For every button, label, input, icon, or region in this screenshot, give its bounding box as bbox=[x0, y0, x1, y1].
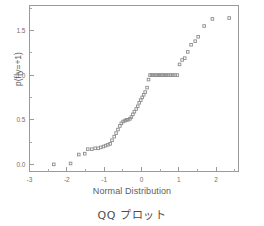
data-point bbox=[94, 147, 97, 150]
data-point bbox=[138, 101, 141, 104]
data-series bbox=[52, 17, 230, 166]
data-point bbox=[178, 63, 181, 66]
data-point bbox=[190, 43, 193, 46]
data-point bbox=[130, 116, 133, 119]
data-point bbox=[111, 139, 114, 142]
data-point bbox=[146, 86, 149, 89]
data-point bbox=[133, 110, 136, 113]
x-tick-label: -3 bbox=[27, 176, 33, 183]
data-point bbox=[176, 74, 179, 77]
data-point bbox=[194, 40, 197, 43]
data-point bbox=[141, 96, 144, 99]
data-point bbox=[115, 132, 118, 135]
data-point bbox=[113, 135, 116, 138]
y-axis-label-container: p(f|y=+1) bbox=[7, 9, 25, 129]
data-point bbox=[144, 91, 147, 94]
data-point bbox=[186, 51, 189, 54]
data-point bbox=[136, 105, 139, 108]
data-point bbox=[147, 78, 150, 81]
data-point bbox=[203, 25, 206, 28]
data-point bbox=[77, 153, 80, 156]
data-point bbox=[91, 148, 94, 151]
data-point bbox=[69, 162, 72, 165]
data-point bbox=[228, 17, 231, 20]
plot-area: -3-2-10120.00.51.01.5 p(f|y=+1) Normal D… bbox=[0, 0, 264, 200]
y-axis-label: p(f|y=+1) bbox=[13, 52, 23, 86]
data-point bbox=[86, 148, 89, 151]
data-point bbox=[139, 99, 142, 102]
data-point bbox=[132, 113, 135, 116]
data-point bbox=[211, 18, 214, 21]
x-axis-label: Normal Distribution bbox=[0, 186, 264, 196]
plot-canvas: -3-2-10120.00.51.01.5 bbox=[0, 0, 264, 200]
data-point bbox=[119, 125, 122, 128]
data-point bbox=[142, 93, 145, 96]
data-point bbox=[197, 35, 200, 38]
data-point bbox=[52, 163, 55, 166]
data-point bbox=[117, 128, 120, 131]
qq-plot-figure: -3-2-10120.00.51.01.5 p(f|y=+1) Normal D… bbox=[0, 0, 264, 226]
x-tick-label: 2 bbox=[214, 176, 218, 183]
figure-caption: QQ プロット bbox=[0, 206, 264, 222]
x-tick-label: 1 bbox=[177, 176, 181, 183]
data-point bbox=[109, 143, 112, 146]
data-point bbox=[83, 152, 86, 155]
data-point bbox=[135, 108, 138, 111]
x-tick-label: 0 bbox=[140, 176, 144, 183]
y-tick-label: 0.0 bbox=[16, 161, 25, 168]
plot-frame bbox=[30, 6, 239, 172]
data-point bbox=[183, 57, 186, 60]
x-tick-label: -2 bbox=[64, 176, 70, 183]
x-tick-label: -1 bbox=[101, 176, 107, 183]
